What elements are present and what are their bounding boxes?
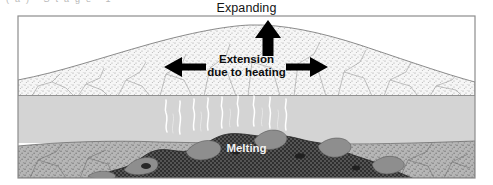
label-extension-line1: Extension: [0, 53, 493, 66]
label-expanding: Expanding: [0, 1, 493, 15]
label-extension: Extension due to heating: [0, 53, 493, 79]
diagram-figure: (a) Stage 1: [0, 0, 493, 185]
label-extension-line2: due to heating: [0, 66, 493, 79]
geology-cross-section: [0, 0, 493, 185]
label-melting: Melting: [0, 142, 493, 154]
